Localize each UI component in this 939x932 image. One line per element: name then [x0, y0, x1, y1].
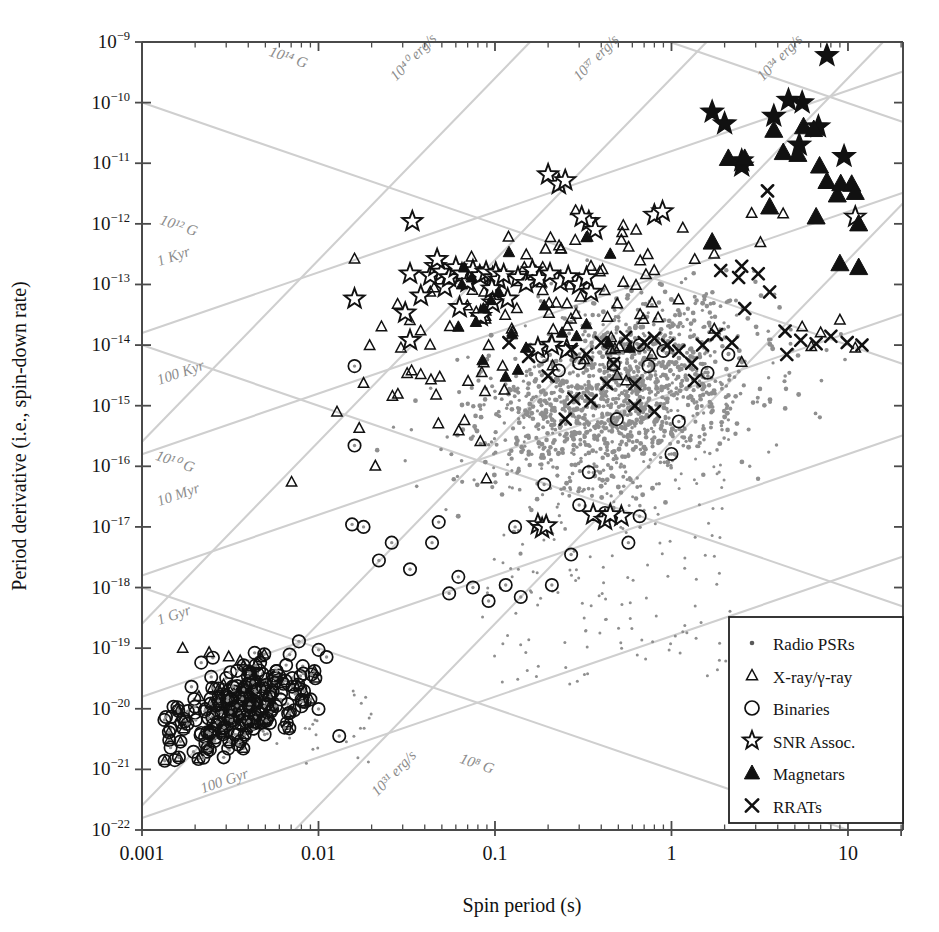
radio-psr-point [392, 426, 395, 429]
radio-psr-point [715, 583, 718, 586]
svg-text:10−9: 10−9 [98, 29, 130, 52]
radio-psr-point [518, 552, 522, 556]
radio-psr-point [598, 594, 601, 597]
radio-psr-point [437, 520, 440, 523]
radio-psr-point [553, 538, 556, 541]
radio-psr-point [345, 740, 348, 743]
rrat-point [639, 337, 650, 348]
radio-psr-point [202, 756, 205, 759]
radio-psr-point [511, 575, 514, 578]
xray-gamma-point [376, 321, 386, 331]
radio-psr-point [570, 451, 573, 454]
xray-gamma-point [690, 254, 700, 264]
radio-psr-point [604, 482, 607, 485]
radio-psr-point [617, 429, 620, 432]
radio-psr-point [494, 450, 498, 454]
radio-psr-point [630, 391, 634, 395]
radio-psr-point [839, 332, 843, 336]
radio-psr-point [525, 458, 528, 461]
radio-psr-point [642, 451, 646, 455]
xray-gamma-point [623, 241, 633, 251]
radio-psr-point [626, 478, 629, 481]
radio-psr-point [531, 416, 536, 421]
snr-assoc-point [833, 145, 855, 166]
radio-psr-point [583, 426, 587, 430]
radio-psr-point [595, 435, 600, 440]
radio-psr-point [655, 483, 658, 486]
radio-psr-point [686, 445, 691, 450]
radio-psr-point [186, 722, 189, 725]
radio-psr-point [587, 487, 591, 491]
radio-psr-point [668, 442, 672, 446]
radio-psr-point [471, 586, 474, 589]
radio-psr-point [548, 445, 553, 450]
radio-psr-point [667, 383, 671, 387]
radio-psr-point [646, 563, 649, 566]
magnetar-point [605, 248, 616, 258]
radio-psr-point [755, 332, 759, 336]
radio-psr-point [589, 429, 592, 432]
y-tick-label: 10−22 [91, 817, 130, 840]
radio-psr-point [509, 567, 512, 570]
radio-psr-point [503, 421, 506, 424]
ppdot-figure: 10¹⁴ G10¹² G10¹⁰ G10⁸ G1 Kyr100 Kyr10 My… [0, 0, 939, 932]
radio-psr-point [668, 648, 671, 651]
radio-psr-point [493, 558, 496, 561]
radio-psr-point [724, 659, 727, 662]
radio-psr-point [624, 470, 627, 473]
radio-psr-point [194, 718, 197, 721]
radio-psr-point [571, 437, 574, 440]
radio-psr-point [694, 406, 699, 411]
xray-gamma-point [618, 277, 628, 287]
radio-psr-point [208, 732, 211, 735]
radio-psr-point [691, 414, 694, 417]
radio-psr-point [283, 726, 286, 729]
radio-psr-point [680, 472, 683, 475]
radio-psr-point [676, 365, 681, 370]
radio-psr-point [517, 420, 522, 425]
radio-psr-point [570, 384, 574, 388]
radio-psr-point [288, 737, 291, 740]
radio-psr-point [486, 587, 489, 590]
radio-psr-point [483, 397, 488, 402]
radio-psr-point [659, 327, 664, 332]
radio-psr-point [251, 680, 254, 683]
radio-psr-point [700, 621, 703, 624]
radio-psr-point [477, 403, 482, 408]
radio-psr-point [718, 572, 721, 575]
radio-psr-point [638, 441, 643, 446]
guide-label: 10³¹ erg/s [368, 747, 419, 799]
radio-psr-point [362, 525, 365, 528]
radio-psr-point [592, 301, 597, 306]
radio-psr-point [733, 394, 738, 399]
legend-label: RRATs [773, 798, 822, 817]
radio-psr-point [674, 360, 679, 365]
radio-psr-point [578, 352, 582, 356]
legend-group[interactable]: Radio PSRsX-ray/γ-rayBinariesSNR Assoc.M… [729, 617, 903, 823]
radio-psr-point [539, 442, 544, 447]
xray-gamma-point [673, 294, 683, 304]
xray-gamma-point [466, 251, 476, 261]
radio-psr-point [745, 316, 750, 321]
radio-psr-point [597, 368, 602, 373]
radio-psr-point [564, 431, 569, 436]
radio-psr-point [666, 575, 669, 578]
y-tick-label: 10−18 [91, 575, 130, 598]
radio-psr-point [698, 352, 702, 356]
radio-psr-point [460, 459, 464, 463]
radio-psr-point [602, 581, 605, 584]
radio-psr-point [310, 673, 313, 676]
radio-psr-point [593, 362, 597, 366]
radio-psr-point [703, 362, 706, 365]
radio-psr-point [586, 422, 589, 425]
radio-psr-point [570, 574, 573, 577]
radio-psr-point [413, 398, 418, 403]
x-tick-label: 1 [666, 842, 676, 864]
radio-psr-point [576, 680, 579, 683]
radio-psr-point [622, 399, 627, 404]
radio-psr-point [526, 381, 531, 386]
radio-psr-point [639, 448, 643, 452]
radio-psr-point [473, 414, 478, 419]
radio-psr-point [652, 430, 656, 434]
radio-psr-point [659, 385, 663, 389]
